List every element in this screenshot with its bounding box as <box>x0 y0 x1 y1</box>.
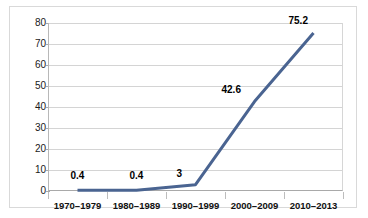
y-tick-label: 20 <box>20 144 46 154</box>
y-tick-label: 60 <box>20 60 46 70</box>
y-tick-label: 0 <box>20 186 46 196</box>
line-series <box>48 23 343 191</box>
data-label: 0.4 <box>130 171 144 181</box>
x-category-label: 1970–1979 <box>48 200 107 211</box>
y-tick-label: 70 <box>20 39 46 49</box>
y-tick-label: 40 <box>20 102 46 112</box>
x-axis: 1970–19791980–19891990–19992000–20092010… <box>48 192 344 216</box>
x-category-label: 1980–1989 <box>107 200 166 211</box>
data-label: 0.4 <box>71 171 85 181</box>
y-axis: 01020304050607080 <box>16 23 46 191</box>
y-tick-label: 50 <box>20 81 46 91</box>
x-tick-divider <box>225 192 226 199</box>
x-tick-divider <box>284 192 285 199</box>
x-tick-divider <box>107 192 108 199</box>
x-tick-divider <box>343 192 344 199</box>
chart-container: 01020304050607080 0.40.4342.675.2 1970–1… <box>9 6 357 208</box>
series-polyline <box>78 33 314 190</box>
x-tick-divider <box>166 192 167 199</box>
x-category-label: 1990–1999 <box>166 200 225 211</box>
x-category-label: 2000–2009 <box>225 200 284 211</box>
data-label: 75.2 <box>289 16 308 26</box>
y-tick-label: 80 <box>20 18 46 28</box>
y-tick-label: 30 <box>20 123 46 133</box>
y-tick-label: 10 <box>20 165 46 175</box>
data-label: 42.6 <box>222 85 241 95</box>
x-tick-divider <box>48 192 49 199</box>
data-label: 3 <box>177 169 183 179</box>
x-category-label: 2010–2013 <box>284 200 343 211</box>
